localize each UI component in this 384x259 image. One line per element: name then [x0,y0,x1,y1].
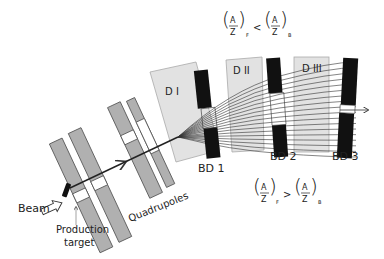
formula-bottom-num-left: A [261,183,267,192]
formula-top-den-right: Z [272,28,278,37]
production-target-label-2: target [64,237,94,248]
degrader-bd2 [266,58,288,158]
svg-text:(: ( [222,7,230,31]
formula-top-num-right: A [272,16,278,25]
formula-top-num-left: A [230,16,236,25]
svg-text:): ) [238,7,246,31]
dipole-d3-label: D III [302,63,322,74]
formula-bottom-den-left: Z [261,195,267,204]
bd1-label: BD 1 [198,162,225,175]
svg-text:(: ( [264,7,272,31]
svg-text:): ) [269,174,277,198]
formula-top-sub-left: F [246,32,249,38]
formula-top-operator: < [253,22,261,33]
dipole-d1-label: D I [165,86,179,97]
formula-bottom-operator: > [283,189,291,200]
formula-top-sub-right: B [288,32,292,38]
svg-text:(: ( [294,174,302,198]
formula-top-den-left: Z [230,28,236,37]
formula-bottom-sub-left: F [276,199,279,205]
svg-text:): ) [280,7,288,31]
beam-label: Beam [18,202,50,215]
bd3-label: BD 3 [332,150,359,163]
formula-bottom-num-right: A [302,183,308,192]
production-target-label-1: Production [56,224,109,235]
formula-bottom: ( A Z ) F > ( A Z ) B [253,174,322,205]
svg-text:(: ( [253,174,261,198]
svg-text:): ) [310,174,318,198]
bd2-label: BD 2 [270,150,297,163]
degrader-bd3 [337,58,358,159]
formula-bottom-sub-right: B [318,199,322,205]
fragment-separator-diagram: Beam Production target Quadrupoles D I D… [0,0,384,259]
quadrupoles-label: Quadrupoles [127,190,190,224]
formula-bottom-den-right: Z [302,195,308,204]
dipole-d2-label: D II [233,65,250,76]
production-target [62,183,71,198]
formula-top: ( A Z ) F < ( A Z ) B [222,7,292,38]
